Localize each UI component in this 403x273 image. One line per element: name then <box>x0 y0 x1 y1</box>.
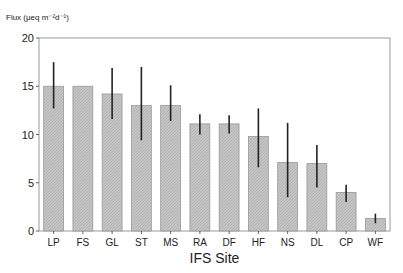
x-tick-label: WF <box>368 237 384 248</box>
bar-chart-plot: 05101520LPFSGLSTMSRADFHFNSDLCPWFIFS Site <box>0 0 403 273</box>
x-tick-label: DF <box>222 237 235 248</box>
x-tick-label: RA <box>193 237 207 248</box>
chart: Flux (μeq m⁻²d⁻¹) 05101520LPFSGLSTMSRADF… <box>0 0 403 273</box>
x-tick-label: NS <box>281 237 295 248</box>
bar <box>219 124 239 231</box>
x-tick-label: ST <box>135 237 148 248</box>
y-tick-label: 0 <box>28 225 34 237</box>
x-tick-label: FS <box>76 237 89 248</box>
bar <box>73 86 93 231</box>
y-tick-label: 10 <box>22 129 34 141</box>
x-tick-label: GL <box>105 237 119 248</box>
x-tick-label: HF <box>252 237 265 248</box>
x-tick-label: DL <box>310 237 323 248</box>
y-tick-label: 5 <box>28 177 34 189</box>
bar <box>190 124 210 231</box>
bar <box>161 106 181 231</box>
x-tick-label: MS <box>163 237 178 248</box>
y-tick-label: 20 <box>22 32 34 44</box>
x-axis-label: IFS Site <box>190 250 240 266</box>
x-tick-label: CP <box>339 237 353 248</box>
x-tick-label: LP <box>48 237 61 248</box>
y-tick-label: 15 <box>22 80 34 92</box>
